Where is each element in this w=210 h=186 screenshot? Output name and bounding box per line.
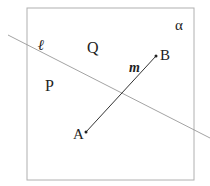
point-a-dot: [85, 131, 88, 134]
plane-alpha: [27, 8, 194, 180]
point-p-label: P: [45, 77, 54, 94]
line-l-label: ℓ: [38, 37, 44, 53]
segment-m: [86, 56, 156, 132]
diagram-canvas: α ℓ Q B m P A: [0, 0, 210, 186]
point-q-label: Q: [87, 39, 99, 56]
point-b-dot: [155, 55, 158, 58]
point-b-label: B: [160, 47, 170, 63]
point-a-label: A: [73, 126, 84, 142]
plane-label: α: [175, 17, 183, 33]
segment-m-label: m: [129, 60, 140, 75]
